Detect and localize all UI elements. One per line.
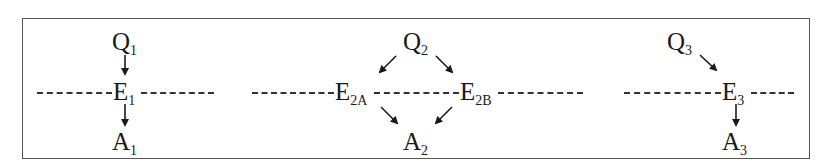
arrow-icon — [381, 107, 397, 123]
arrow-icon — [436, 56, 452, 72]
arrow-icon — [380, 56, 396, 72]
arrows-layer — [0, 0, 830, 168]
arrow-icon — [700, 55, 716, 70]
arrow-icon — [436, 107, 452, 123]
